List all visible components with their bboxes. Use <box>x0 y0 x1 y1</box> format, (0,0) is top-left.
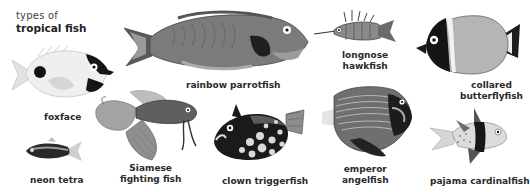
label-neon-tetra: neon tetra <box>30 175 83 186</box>
title-subtitle: types of <box>16 10 87 22</box>
label-line: collared <box>460 80 523 91</box>
clown-triggerfish-illustration <box>210 100 306 164</box>
neon-tetra-illustration <box>22 137 84 165</box>
label-line: angelfish <box>342 175 389 186</box>
collared-butterflyfish-illustration <box>412 12 522 78</box>
label-line: emperor <box>342 164 389 175</box>
title-heading: tropical fish <box>16 22 87 34</box>
label-line: fighting fish <box>120 174 181 185</box>
label-emperor-angelfish: emperor angelfish <box>342 164 389 186</box>
label-collared-butterflyfish: collared butterflyfish <box>460 80 523 102</box>
label-longnose-hawkfish: longnose hawkfish <box>342 50 388 72</box>
rainbow-parrotfish-illustration <box>122 8 312 74</box>
emperor-angelfish-illustration <box>320 78 416 160</box>
label-foxface: foxface <box>44 112 81 123</box>
label-line: longnose <box>342 50 388 61</box>
label-line: Siamese <box>120 163 181 174</box>
label-line: butterflyfish <box>460 91 523 102</box>
label-line: hawkfish <box>342 61 388 72</box>
label-pajama-cardinalfish: pajama cardinalfish <box>430 176 530 187</box>
longnose-hawkfish-illustration <box>312 8 398 46</box>
pajama-cardinalfish-illustration <box>428 106 512 166</box>
label-clown-triggerfish: clown triggerfish <box>222 176 308 187</box>
label-siamese-fighting-fish: Siamese fighting fish <box>120 163 181 185</box>
siamese-fighting-fish-illustration <box>92 88 204 162</box>
infographic-title: types of tropical fish <box>16 10 87 34</box>
